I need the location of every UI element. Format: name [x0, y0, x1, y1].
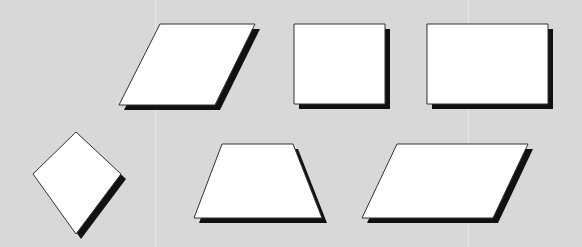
parallelogram-shape	[119, 24, 260, 110]
shape-face	[194, 144, 322, 218]
shape-face	[119, 24, 255, 105]
wide-parallelogram-shape	[362, 144, 533, 223]
square-shape	[294, 24, 390, 109]
shape-face	[294, 24, 385, 104]
rectangle-shape	[427, 24, 553, 109]
shape-face	[427, 24, 548, 104]
trapezoid-shape	[194, 144, 327, 223]
kite-shape	[33, 132, 126, 239]
shape-face	[33, 132, 121, 234]
shapes-canvas	[0, 0, 582, 247]
